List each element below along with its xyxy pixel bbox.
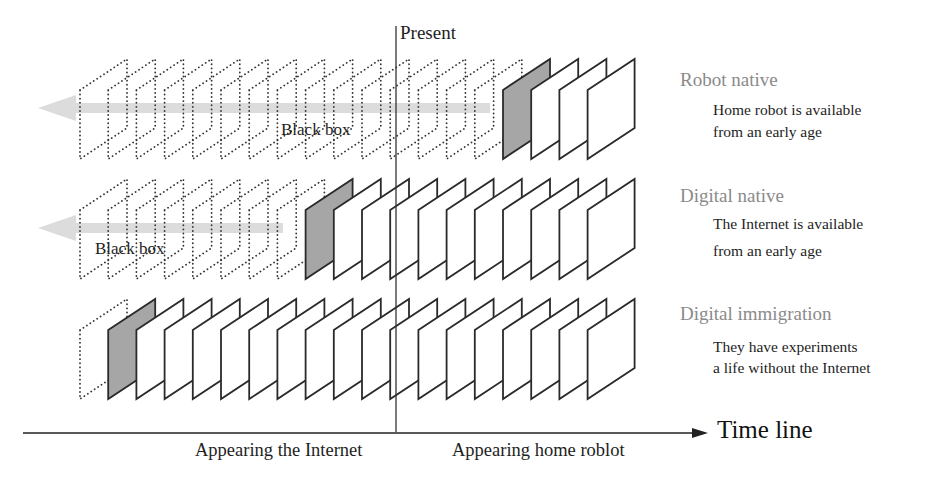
- row-title-robot-native: Robot native: [680, 69, 778, 91]
- black-box-arrow: [38, 95, 490, 121]
- timeline-label: Time line: [717, 416, 813, 444]
- timeline-arrowhead-icon: [692, 428, 708, 438]
- row-desc-robot-native-2: from an early age: [713, 121, 822, 143]
- row-desc-digital-native-2: from an early age: [713, 240, 822, 262]
- black-box-arrow: [38, 215, 283, 241]
- row-desc-digital-immigration-1: They have experiments: [713, 336, 858, 358]
- marker-label-home-robot: Appearing home roblot: [452, 440, 625, 461]
- row-desc-robot-native-1: Home robot is available: [713, 99, 862, 121]
- row-desc-digital-native-1: The Internet is available: [713, 213, 863, 235]
- black-box-label-digital-row: Black box: [95, 239, 164, 259]
- row-title-digital-native: Digital native: [680, 185, 784, 207]
- row-desc-digital-immigration-2: a life without the Internet: [713, 357, 871, 379]
- row-title-digital-immigration: Digital immigration: [680, 303, 831, 325]
- black-box-label-robot-row: Black box: [281, 120, 350, 140]
- marker-label-internet: Appearing the Internet: [195, 440, 362, 461]
- present-label: Present: [400, 22, 456, 44]
